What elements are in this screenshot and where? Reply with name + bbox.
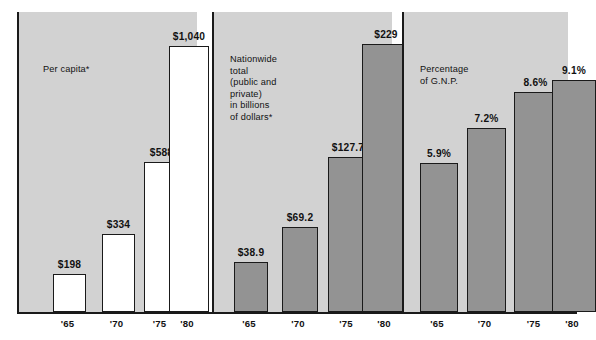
x-tick-label: '75 (339, 318, 353, 329)
panel-percentage-of-gnp: Percentage of G.N.P. 5.9%7.2%8.6%9.1% (402, 12, 568, 314)
x-tick-label: '70 (110, 318, 124, 329)
bar-value-label: $69.2 (287, 212, 314, 223)
bar-value-label: $1,040 (173, 31, 205, 42)
plot-area-per-capita: $198$334$588$1,040 (19, 12, 197, 314)
bar-nationwide-total-70 (282, 227, 318, 312)
bar-value-label: $38.9 (238, 247, 265, 258)
bar-percentage-of-gnp-80 (552, 80, 596, 312)
x-tick-label: '80 (180, 318, 194, 329)
x-tick-label: '80 (565, 318, 579, 329)
panel-nationwide-total: Nationwide total (public and private) in… (212, 12, 392, 314)
bar-per-capita-70 (102, 234, 135, 312)
x-tick-label: '65 (61, 318, 75, 329)
bar-percentage-of-gnp-75 (514, 92, 557, 312)
axis-baseline-per-capita (17, 312, 213, 314)
bar-value-label: 9.1% (562, 65, 586, 76)
bar-value-label: 5.9% (427, 148, 451, 159)
bar-value-label: $198 (58, 259, 81, 270)
bar-value-label: $127.7 (332, 142, 364, 153)
bar-per-capita-65 (53, 274, 86, 312)
bar-percentage-of-gnp-70 (467, 128, 506, 312)
x-tick-label: '70 (478, 318, 492, 329)
panel-per-capita: Per capita* $198$334$588$1,040 (17, 12, 197, 314)
bar-nationwide-total-65 (234, 262, 268, 312)
bar-value-label: $334 (107, 219, 130, 230)
bar-value-label: 8.6% (523, 77, 547, 88)
bar-value-label: 7.2% (474, 113, 498, 124)
bar-per-capita-80 (169, 46, 209, 312)
x-tick-label: '75 (153, 318, 167, 329)
bar-value-label: $229 (374, 29, 397, 40)
axis-baseline-percentage-of-gnp (402, 312, 577, 314)
plot-area-percentage-of-gnp: 5.9%7.2%8.6%9.1% (404, 12, 568, 314)
x-tick-label: '70 (291, 318, 305, 329)
x-tick-label: '80 (377, 318, 391, 329)
plot-area-nationwide-total: $38.9$69.2$127.7$229 (214, 12, 392, 314)
x-tick-label: '65 (430, 318, 444, 329)
x-tick-label: '75 (527, 318, 541, 329)
x-tick-label: '65 (242, 318, 256, 329)
bar-percentage-of-gnp-65 (420, 163, 458, 312)
axis-baseline-nationwide-total (212, 312, 402, 314)
